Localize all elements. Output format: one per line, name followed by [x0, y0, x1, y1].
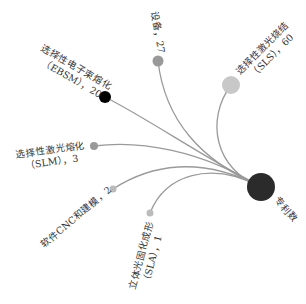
child-node-3[interactable] — [90, 142, 98, 150]
child-label-2: 选择性电子束熔化（EBSM），20 — [33, 42, 114, 102]
label-line-1: 设备，27 — [149, 10, 167, 53]
child-label-4: 软件CNC和建模，2 — [38, 184, 113, 250]
child-label-5: 立体光固化成形（SLA），1 — [126, 220, 166, 294]
radial-tree-diagram: 设备，27选择性激光烧结（SLS），60选择性电子束熔化（EBSM），20选择性… — [0, 0, 306, 304]
child-label-3: 选择性激光熔化（SLM），3 — [15, 139, 88, 172]
root-label: 专利数 — [272, 194, 300, 224]
link-0 — [158, 61, 261, 187]
child-node-5[interactable] — [147, 210, 154, 217]
diagram-canvas: 设备，27选择性激光烧结（SLS），60选择性电子束熔化（EBSM），20选择性… — [0, 0, 306, 304]
labels-layer: 设备，27选择性激光烧结（SLS），60选择性电子束熔化（EBSM），20选择性… — [15, 10, 300, 293]
root-node[interactable] — [247, 173, 275, 201]
child-label-0: 设备，27 — [149, 10, 167, 53]
nodes-layer — [90, 56, 275, 217]
link-5 — [150, 173, 261, 213]
child-node-1[interactable] — [222, 76, 240, 94]
label-line-1: 软件CNC和建模，2 — [38, 184, 113, 250]
child-node-0[interactable] — [153, 56, 164, 67]
child-label-1: 选择性激光烧结（SLS），60 — [234, 19, 300, 85]
